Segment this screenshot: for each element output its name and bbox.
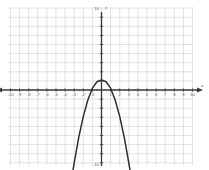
coordinate-plane-graph: -10-9-8-7-6-5-4-3-2-112345678910 10-10 x… [0,0,209,170]
x-tick-label: -7 [36,92,40,97]
graph-canvas: -10-9-8-7-6-5-4-3-2-112345678910 10-10 x… [0,0,209,170]
x-tick-label: -5 [54,92,58,97]
x-tick-label: 10 [190,92,195,97]
x-tick-label: -9 [18,92,22,97]
x-tick-label: -2 [81,92,85,97]
y-tick-label-bottom: -10 [93,162,100,167]
x-tick-label: -10 [7,92,14,97]
y-tick-label-top: 10 [94,6,99,11]
x-tick-label: -6 [45,92,49,97]
x-tick-label: -4 [63,92,67,97]
x-tick-label: -3 [72,92,76,97]
x-tick-label: -8 [27,92,31,97]
